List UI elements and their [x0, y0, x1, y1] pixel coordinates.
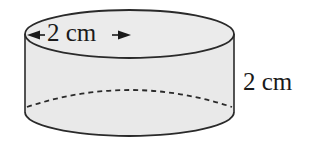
- diameter-label: 2 cm: [47, 20, 96, 45]
- cylinder-diagram: 2 cm 2 cm: [0, 0, 316, 144]
- height-label: 2 cm: [243, 69, 292, 94]
